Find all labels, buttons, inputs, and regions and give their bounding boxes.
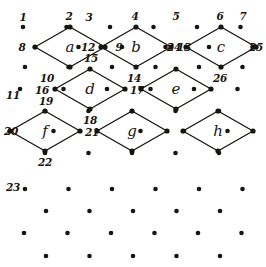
lattice-dot xyxy=(207,45,212,50)
lattice-dot xyxy=(192,87,197,92)
label-7: 7 xyxy=(239,11,246,22)
label-20: 20 xyxy=(4,126,18,137)
label-5: 5 xyxy=(172,11,179,22)
cell-e-vertex-top xyxy=(173,66,178,71)
cell-g-vertex-bottom xyxy=(129,148,134,153)
cell-h-vertex-left xyxy=(180,128,185,133)
cell-f-label: f xyxy=(42,124,48,139)
lattice-dot xyxy=(110,65,115,70)
lattice-dot xyxy=(87,209,92,214)
cell-c-vertex-top xyxy=(218,24,223,29)
label-24: 24 xyxy=(167,42,181,53)
label-8: 8 xyxy=(18,42,25,53)
lattice-dot xyxy=(153,65,158,70)
label-18: 18 xyxy=(83,115,97,126)
cell-e-vertex-right xyxy=(208,86,213,91)
cell-c-label: c xyxy=(217,40,225,55)
cell-a-vertex-left xyxy=(32,44,37,49)
cell-d-vertex-top xyxy=(87,66,92,71)
lattice-dot xyxy=(239,231,244,236)
lattice-dot xyxy=(235,87,240,92)
label-15: 15 xyxy=(84,53,98,64)
lattice-dot xyxy=(86,151,91,156)
cell-a-vertex-top xyxy=(67,24,72,29)
lattice-dot xyxy=(138,129,143,134)
cell-c-vertex-bottom xyxy=(218,64,223,69)
lattice-dot xyxy=(131,209,136,214)
lattice-dot xyxy=(66,187,71,192)
lattice-dot xyxy=(22,231,27,236)
lattice-dot xyxy=(218,254,223,259)
lattice-dot xyxy=(44,254,49,259)
label-19: 19 xyxy=(39,96,53,107)
cell-a-label: a xyxy=(66,40,75,55)
cell-f-vertex-bottom xyxy=(42,148,47,153)
cell-d-vertex-bottom xyxy=(87,106,92,111)
label-16: 16 xyxy=(35,85,49,96)
label-11: 11 xyxy=(6,90,20,101)
lattice-dot xyxy=(151,25,156,30)
cell-b-label: b xyxy=(131,40,141,55)
lattice-dot xyxy=(51,129,56,134)
cell-b-vertex-left xyxy=(98,44,103,49)
cell-d-vertex-left xyxy=(52,86,57,91)
lattice-dot xyxy=(173,151,178,156)
label-1: 1 xyxy=(19,12,26,23)
lattice-dot xyxy=(197,65,202,70)
cell-b-vertex-bottom xyxy=(133,64,138,69)
lattice-dot xyxy=(23,65,28,70)
label-25: 25 xyxy=(249,42,263,53)
lattice-dot xyxy=(65,231,70,236)
cell-g-vertex-top xyxy=(129,108,134,113)
lattice-dot xyxy=(195,25,200,30)
label-26: 26 xyxy=(213,73,227,84)
lattice-dot xyxy=(218,209,223,214)
lattice-diagram: 1234567891011121314151617181920212223242… xyxy=(0,0,266,267)
lattice-dot xyxy=(110,187,115,192)
cell-a-vertex-bottom xyxy=(67,64,72,69)
lattice-dot xyxy=(148,87,153,92)
cell-e-label: e xyxy=(172,82,181,97)
label-12: 12 xyxy=(81,42,95,53)
label-2: 2 xyxy=(65,11,72,22)
cell-f-vertex-top xyxy=(42,108,47,113)
cell-h-vertex-top xyxy=(215,108,220,113)
label-22: 22 xyxy=(38,157,52,168)
lattice-dot xyxy=(44,209,49,214)
label-9: 9 xyxy=(115,42,122,53)
label-3: 3 xyxy=(85,12,92,23)
cell-e-vertex-bottom xyxy=(173,106,178,111)
cell-f-vertex-right xyxy=(77,128,82,133)
lattice-dot xyxy=(196,231,201,236)
cell-h-vertex-right xyxy=(250,128,255,133)
cell-g-vertex-right xyxy=(164,128,169,133)
lattice-dot xyxy=(174,209,179,214)
lattice-dot xyxy=(108,25,113,30)
cell-h-vertex-bottom xyxy=(215,148,220,153)
label-4: 4 xyxy=(131,11,138,22)
lattice-dot xyxy=(174,254,179,259)
lattice-dot xyxy=(238,25,243,30)
lattice-dot xyxy=(240,187,245,192)
lattice-dot xyxy=(197,187,202,192)
lattice-dot xyxy=(21,25,26,30)
lattice-dot xyxy=(225,129,230,134)
label-23: 23 xyxy=(6,182,20,193)
label-6: 6 xyxy=(216,11,223,22)
lattice-dot xyxy=(105,87,110,92)
lattice-dot xyxy=(61,87,66,92)
cell-d-label: d xyxy=(85,82,95,97)
lattice-dots-group xyxy=(8,25,255,259)
lattice-dot xyxy=(23,187,28,192)
label-14: 14 xyxy=(127,73,141,84)
cell-h-label: h xyxy=(213,124,223,139)
cell-g-label: g xyxy=(127,124,137,139)
lattice-dot xyxy=(131,254,136,259)
lattice-dot xyxy=(152,231,157,236)
lattice-dot xyxy=(153,187,158,192)
label-10: 10 xyxy=(40,73,54,84)
lattice-dot xyxy=(87,254,92,259)
lattice-dot xyxy=(109,231,114,236)
label-21: 21 xyxy=(85,127,99,138)
cell-d-vertex-right xyxy=(122,86,127,91)
